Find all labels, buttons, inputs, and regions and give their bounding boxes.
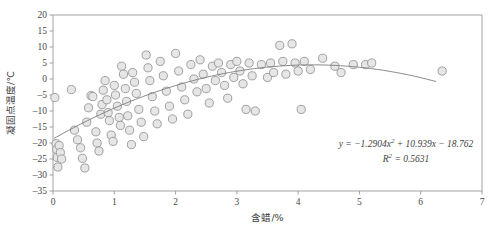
- data-point: [294, 67, 302, 75]
- x-tick-label: 0: [51, 197, 56, 207]
- data-point: [151, 107, 159, 115]
- data-point: [171, 49, 179, 57]
- y-tick-label: 10: [38, 42, 48, 52]
- y-tick-label: –25: [32, 154, 48, 164]
- x-tick-label: 6: [418, 197, 423, 207]
- data-point: [78, 154, 86, 162]
- data-point: [124, 112, 132, 120]
- data-point: [129, 69, 137, 77]
- data-point: [196, 56, 204, 64]
- data-point: [368, 59, 376, 67]
- data-point: [248, 72, 256, 80]
- data-point: [276, 41, 284, 49]
- data-point: [221, 81, 229, 89]
- data-point: [113, 102, 121, 110]
- x-axis: 01234567: [51, 191, 485, 207]
- data-point: [245, 59, 253, 67]
- data-point: [126, 126, 134, 134]
- data-point: [190, 75, 198, 83]
- data-point: [95, 147, 103, 155]
- data-point: [54, 163, 62, 171]
- data-point: [130, 78, 138, 86]
- data-point: [159, 72, 167, 80]
- data-point: [168, 115, 176, 123]
- x-tick-label: 1: [112, 197, 117, 207]
- data-point: [105, 117, 113, 125]
- data-point: [217, 69, 225, 77]
- data-point: [132, 89, 140, 97]
- data-point: [110, 81, 118, 89]
- x-axis-title: 含蜡/%: [251, 212, 283, 223]
- data-point: [187, 61, 195, 69]
- data-point: [92, 128, 100, 136]
- data-point: [282, 70, 290, 78]
- data-point: [146, 77, 154, 85]
- data-point: [137, 118, 145, 126]
- data-point: [306, 65, 314, 73]
- y-tick-label: 0: [42, 74, 47, 84]
- data-point: [118, 62, 126, 70]
- data-point: [202, 85, 210, 93]
- scatter-chart: 20151050–5–10–15–20–25–30–3501234567含蜡/%…: [0, 0, 499, 235]
- y-tick-label: 5: [42, 58, 47, 68]
- data-point: [101, 77, 109, 85]
- data-point: [51, 93, 59, 101]
- x-tick-label: 3: [234, 197, 239, 207]
- y-axis-title: 凝固点温度/℃: [5, 71, 16, 135]
- data-point: [116, 121, 124, 129]
- data-point: [266, 59, 274, 67]
- data-point: [142, 51, 150, 59]
- data-point: [127, 141, 135, 149]
- data-point: [438, 67, 446, 75]
- data-point: [224, 94, 232, 102]
- data-point: [181, 96, 189, 104]
- y-tick-label: –5: [37, 90, 48, 100]
- y-tick-label: 20: [38, 10, 48, 20]
- data-point: [319, 54, 327, 62]
- data-point: [109, 137, 117, 145]
- data-point: [211, 77, 219, 85]
- y-tick-label: –30: [32, 170, 48, 180]
- data-point: [57, 155, 65, 163]
- data-point: [233, 57, 241, 65]
- data-point: [291, 59, 299, 67]
- data-point: [103, 96, 111, 104]
- data-point: [239, 80, 247, 88]
- data-point: [297, 105, 305, 113]
- regression-equation: y = −1.2904x2 + 10.939x − 18.762: [338, 137, 474, 149]
- data-point: [230, 73, 238, 81]
- x-tick-label: 4: [296, 197, 301, 207]
- data-point: [270, 69, 278, 77]
- chart-figure: 20151050–5–10–15–20–25–30–3501234567含蜡/%…: [0, 0, 499, 235]
- data-point: [121, 85, 129, 93]
- data-point: [337, 69, 345, 77]
- data-point: [140, 133, 148, 141]
- data-point: [165, 102, 173, 110]
- y-axis: 20151050–5–10–15–20–25–30–35: [32, 10, 53, 196]
- data-point: [67, 85, 75, 93]
- data-point: [251, 107, 259, 115]
- data-point: [300, 57, 308, 65]
- data-point: [119, 70, 127, 78]
- data-point: [156, 57, 164, 65]
- data-point: [214, 59, 222, 67]
- x-tick-label: 7: [480, 197, 485, 207]
- data-point: [135, 105, 143, 113]
- data-point: [279, 57, 287, 65]
- data-point: [205, 99, 213, 107]
- data-point: [81, 164, 89, 172]
- data-point: [288, 40, 296, 48]
- data-point: [111, 91, 119, 99]
- data-point: [153, 120, 161, 128]
- data-point: [144, 64, 152, 72]
- data-point: [93, 139, 101, 147]
- data-point: [193, 88, 201, 96]
- data-point: [89, 93, 97, 101]
- data-point: [331, 62, 339, 70]
- y-tick-label: –20: [32, 138, 48, 148]
- data-point: [73, 136, 81, 144]
- y-tick-label: –35: [32, 186, 48, 196]
- x-tick-label: 2: [173, 197, 178, 207]
- y-tick-label: –15: [32, 122, 48, 132]
- x-tick-label: 5: [357, 197, 362, 207]
